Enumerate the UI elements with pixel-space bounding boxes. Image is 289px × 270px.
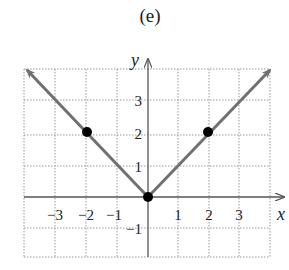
y-axis-label: y (129, 50, 139, 70)
svg-text:2: 2 (135, 126, 143, 142)
graph-figure: (e) x y −3 −2 −1 1 2 3 3 2 1 −1 (0, 0, 289, 270)
x-tick-labels: −3 −2 −1 1 2 3 (47, 207, 243, 223)
point-neg2-2 (82, 127, 92, 137)
panel-label: (e) (139, 5, 160, 27)
svg-text:2: 2 (205, 207, 213, 223)
svg-text:3: 3 (135, 93, 143, 109)
point-2-2 (203, 127, 213, 137)
svg-text:−3: −3 (47, 207, 63, 223)
point-origin (143, 192, 153, 202)
y-tick-labels: 3 2 1 −1 (126, 93, 142, 237)
svg-text:−1: −1 (126, 221, 142, 237)
svg-text:−2: −2 (78, 207, 94, 223)
svg-text:3: 3 (235, 207, 243, 223)
svg-text:1: 1 (135, 159, 143, 175)
svg-text:1: 1 (174, 207, 182, 223)
x-axis-label: x (276, 204, 285, 224)
axes (24, 59, 284, 257)
grid (24, 69, 270, 257)
svg-text:−1: −1 (106, 207, 122, 223)
